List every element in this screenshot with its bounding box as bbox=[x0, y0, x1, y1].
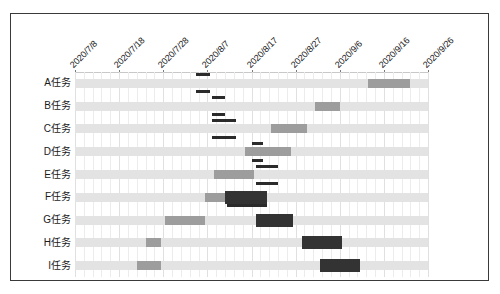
task-bar-dark[interactable] bbox=[256, 214, 294, 227]
progress-marker bbox=[252, 142, 263, 145]
row-band bbox=[75, 216, 428, 225]
y-axis-label: E任务 bbox=[17, 169, 71, 180]
x-axis-label: 2020/7/28 bbox=[156, 35, 191, 70]
task-bar-gray[interactable] bbox=[146, 238, 161, 247]
task-bar-dark[interactable] bbox=[225, 191, 267, 204]
task-bar-gray[interactable] bbox=[165, 216, 205, 225]
progress-marker bbox=[212, 113, 225, 116]
x-axis-label: 2020/8/7 bbox=[200, 39, 231, 70]
y-axis-label: G任务 bbox=[17, 214, 71, 225]
progress-marker bbox=[196, 73, 209, 76]
row-band bbox=[75, 261, 428, 270]
x-axis-label: 2020/9/6 bbox=[333, 39, 364, 70]
progress-marker bbox=[256, 182, 278, 185]
task-bar-gray[interactable] bbox=[315, 102, 339, 111]
x-axis: 2020/7/82020/7/182020/7/282020/8/72020/8… bbox=[75, 14, 495, 72]
y-axis-label: C任务 bbox=[17, 123, 71, 134]
y-axis-label: F任务 bbox=[17, 191, 71, 202]
y-axis-label: I任务 bbox=[17, 260, 71, 271]
task-bar-gray[interactable] bbox=[205, 193, 225, 202]
x-axis-label: 2020/8/27 bbox=[289, 35, 324, 70]
task-bar-dark[interactable] bbox=[302, 236, 342, 249]
task-bar-gray[interactable] bbox=[137, 261, 161, 270]
row-band bbox=[75, 238, 428, 247]
y-axis-label: D任务 bbox=[17, 146, 71, 157]
x-axis-label: 2020/7/18 bbox=[112, 35, 147, 70]
task-bar-dark[interactable] bbox=[320, 259, 360, 272]
progress-marker bbox=[252, 159, 263, 162]
gridline-major bbox=[428, 72, 429, 277]
progress-marker bbox=[256, 165, 278, 168]
y-axis: A任务B任务C任务D任务E任务F任务G任务H任务I任务 bbox=[15, 72, 71, 277]
x-axis-label: 2020/9/26 bbox=[421, 35, 456, 70]
row-band bbox=[75, 102, 428, 111]
x-axis-label: 2020/8/17 bbox=[244, 35, 279, 70]
y-axis-label: B任务 bbox=[17, 100, 71, 111]
plot-area bbox=[75, 72, 428, 277]
y-axis-label: A任务 bbox=[17, 77, 71, 88]
task-bar-gray[interactable] bbox=[271, 124, 306, 133]
task-bar-gray[interactable] bbox=[214, 170, 254, 179]
progress-marker bbox=[212, 96, 225, 99]
x-axis-label: 2020/7/8 bbox=[68, 39, 99, 70]
task-bar-gray[interactable] bbox=[245, 147, 291, 156]
gantt-chart-frame: 2020/7/82020/7/182020/7/282020/8/72020/8… bbox=[10, 13, 489, 281]
progress-marker bbox=[212, 119, 236, 122]
task-bar-gray[interactable] bbox=[368, 79, 410, 88]
row-band bbox=[75, 124, 428, 133]
x-axis-label: 2020/9/16 bbox=[377, 35, 412, 70]
progress-marker bbox=[227, 204, 267, 207]
progress-marker bbox=[196, 90, 209, 93]
y-axis-label: H任务 bbox=[17, 237, 71, 248]
progress-marker bbox=[212, 136, 236, 139]
